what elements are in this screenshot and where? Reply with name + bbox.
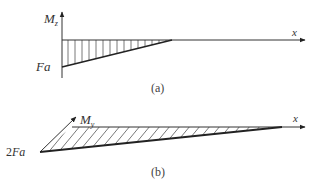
fa-label: Fa	[35, 59, 51, 74]
caption-a: (a)	[151, 81, 164, 95]
mz-label: Mz	[43, 11, 59, 28]
x-label-b: x	[292, 112, 298, 124]
x-label-a: x	[291, 26, 297, 38]
diagram-a: Mz Fa x (a)	[35, 11, 305, 95]
my-label: My	[79, 112, 95, 129]
caption-b: (b)	[151, 165, 165, 179]
my-axis	[40, 117, 76, 152]
diagram-b: My 2Fa x (b)	[6, 112, 305, 179]
2fa-label: 2Fa	[6, 145, 25, 159]
moment-diagrams: Mz Fa x (a)	[0, 0, 317, 189]
